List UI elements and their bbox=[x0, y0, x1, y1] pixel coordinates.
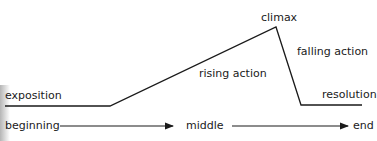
label-climax: climax bbox=[261, 12, 297, 23]
label-exposition: exposition bbox=[5, 90, 62, 101]
label-beginning: beginning bbox=[5, 120, 60, 131]
label-resolution: resolution bbox=[322, 89, 377, 100]
label-rising-action: rising action bbox=[199, 68, 267, 79]
label-falling-action: falling action bbox=[297, 46, 368, 57]
label-middle: middle bbox=[186, 120, 224, 131]
label-end: end bbox=[353, 120, 374, 131]
